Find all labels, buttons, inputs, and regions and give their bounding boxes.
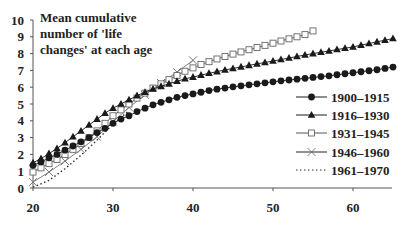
triangle-marker: [101, 109, 109, 116]
y-tick-label: 1: [18, 164, 25, 179]
square-marker: [182, 68, 188, 74]
triangle-marker: [389, 34, 397, 41]
title-line-2: number of 'life: [40, 26, 122, 41]
circle-marker: [302, 75, 309, 82]
square-marker: [294, 34, 300, 40]
y-tick-label: 2: [18, 147, 25, 162]
triangle-marker: [61, 139, 69, 146]
circle-marker: [174, 94, 181, 101]
circle-marker: [246, 81, 253, 88]
y-tick-label: 3: [18, 130, 25, 145]
circle-marker: [150, 101, 157, 108]
circle-marker: [30, 162, 37, 169]
circle-marker: [110, 120, 117, 127]
circle-marker: [166, 96, 173, 103]
y-tick-label: 8: [18, 46, 25, 61]
square-marker: [254, 45, 260, 51]
square-marker: [214, 56, 220, 62]
square-marker: [309, 130, 315, 136]
circle-marker: [334, 71, 341, 78]
circle-marker: [374, 66, 381, 73]
square-marker: [246, 47, 252, 53]
square-marker: [302, 32, 308, 38]
circle-marker: [38, 159, 45, 166]
circle-marker: [350, 69, 357, 76]
y-axis-ticks: 012345678910: [11, 13, 33, 196]
circle-marker: [390, 64, 397, 71]
life-changes-chart: 012345678910 2030405060 Mean cumulative …: [0, 0, 402, 227]
square-marker: [230, 51, 236, 57]
legend: 1900–19151916–19301931–19451946–19601961…: [296, 90, 390, 178]
x-tick-label: 60: [347, 200, 360, 215]
circle-marker: [342, 70, 349, 77]
square-marker: [110, 113, 116, 119]
title-line-1: Mean cumulative: [40, 10, 137, 25]
circle-marker: [230, 83, 237, 90]
legend-item: 1931–1945: [296, 126, 390, 141]
circle-marker: [294, 76, 301, 83]
legend-label: 1900–1915: [331, 90, 390, 105]
circle-marker: [182, 92, 189, 99]
y-tick-label: 9: [18, 29, 25, 44]
circle-marker: [366, 67, 373, 74]
triangle-marker: [53, 145, 61, 152]
circle-marker: [198, 89, 205, 96]
legend-label: 1916–1930: [331, 108, 390, 123]
circle-marker: [158, 99, 165, 106]
triangle-marker: [117, 100, 125, 107]
triangle-marker: [125, 96, 133, 103]
square-marker: [38, 165, 44, 171]
circle-marker: [358, 68, 365, 75]
title-line-3: changes' at each age: [40, 42, 153, 57]
y-tick-label: 7: [18, 63, 25, 78]
triangle-marker: [308, 111, 316, 118]
chart-title: Mean cumulative number of 'life changes'…: [40, 10, 153, 57]
square-marker: [222, 53, 228, 59]
circle-marker: [326, 72, 333, 79]
circle-marker: [46, 154, 53, 161]
legend-label: 1931–1945: [331, 126, 390, 141]
y-tick-label: 0: [18, 181, 25, 196]
circle-marker: [118, 116, 125, 123]
square-marker: [286, 36, 292, 42]
circle-marker: [254, 80, 261, 87]
square-marker: [278, 38, 284, 44]
triangle-marker: [69, 133, 77, 140]
y-tick-label: 6: [18, 80, 25, 95]
cross-marker: [45, 168, 53, 176]
circle-marker: [126, 112, 133, 119]
circle-marker: [286, 77, 293, 84]
circle-marker: [318, 73, 325, 80]
triangle-marker: [93, 115, 101, 122]
square-marker: [30, 169, 36, 175]
x-axis-ticks: 2030405060: [27, 188, 360, 215]
cross-marker: [61, 157, 69, 165]
square-marker: [310, 28, 316, 34]
circle-marker: [78, 138, 85, 145]
x-tick-label: 30: [107, 200, 120, 215]
x-tick-label: 50: [267, 200, 280, 215]
circle-marker: [238, 82, 245, 89]
y-tick-label: 4: [18, 113, 25, 128]
square-marker: [46, 161, 52, 167]
circle-marker: [206, 87, 213, 94]
circle-marker: [222, 85, 229, 92]
triangle-marker: [77, 127, 85, 134]
circle-marker: [278, 77, 285, 84]
square-marker: [190, 65, 196, 71]
circle-marker: [382, 65, 389, 72]
y-tick-label: 5: [18, 97, 25, 112]
legend-item: 1900–1915: [296, 90, 390, 105]
square-marker: [262, 42, 268, 48]
circle-marker: [102, 125, 109, 132]
circle-marker: [190, 91, 197, 98]
square-marker: [198, 62, 204, 68]
legend-label: 1961–1970: [331, 163, 390, 178]
circle-marker: [262, 79, 269, 86]
square-marker: [118, 107, 124, 113]
cross-marker: [189, 56, 197, 64]
square-marker: [238, 49, 244, 55]
triangle-marker: [109, 104, 117, 111]
circle-marker: [62, 147, 69, 154]
x-tick-label: 40: [187, 200, 200, 215]
